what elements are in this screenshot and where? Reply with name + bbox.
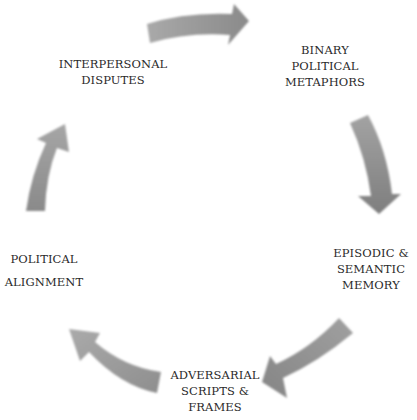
node-adversarial-scripts-frames: ADVERSARIAL SCRIPTS & FRAMES [165,367,265,415]
arrow-binary-to-episodic [350,115,401,214]
arrow-interpersonal-to-binary [147,4,249,45]
cycle-diagram: INTERPERSONAL DISPUTES BINARY POLITICAL … [0,0,417,420]
arrow-political-to-interpersonal [26,124,69,211]
node-label-line: MEMORY [325,277,417,293]
node-label-line: EPISODIC & [325,245,417,261]
arrow-adversarial-to-political [69,329,161,393]
node-political-alignment: POLITICAL ALIGNMENT [4,248,84,294]
node-label-line: POLITICAL [280,58,370,74]
node-interpersonal-disputes: INTERPERSONAL DISPUTES [58,56,168,88]
node-label-line: METAPHORS [280,74,370,90]
node-label-line: POLITICAL [4,248,84,271]
node-label-line: DISPUTES [58,72,168,88]
node-label-line: SEMANTIC [325,261,417,277]
node-label-line: INTERPERSONAL [58,56,168,72]
node-binary-political-metaphors: BINARY POLITICAL METAPHORS [280,42,370,90]
node-episodic-semantic-memory: EPISODIC & SEMANTIC MEMORY [325,245,417,293]
node-label-line: SCRIPTS & [165,383,265,399]
node-label-line: FRAMES [165,399,265,415]
arrow-episodic-to-adversarial [262,318,353,398]
node-label-line: ADVERSARIAL [165,367,265,383]
node-label-line: ALIGNMENT [4,271,84,294]
node-label-line: BINARY [280,42,370,58]
